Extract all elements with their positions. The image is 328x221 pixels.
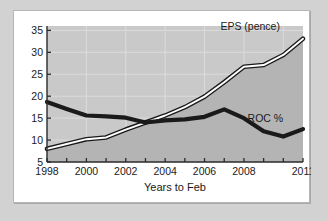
x-tick-label: 2002 xyxy=(114,165,138,177)
y-tick-label: 30 xyxy=(31,46,43,58)
x-tick-label: 2000 xyxy=(75,165,99,177)
y-tick-label: 15 xyxy=(31,112,43,124)
chart-plot-container: 5101520253035 19982000200220042006200820… xyxy=(14,11,311,204)
x-tick-label: 2008 xyxy=(232,165,256,177)
x-tick-label: 2004 xyxy=(153,165,177,177)
x-axis-tick-labels: 1998200020022004200620082011 xyxy=(35,165,311,177)
y-axis-tick-labels: 5101520253035 xyxy=(31,24,43,168)
eps-series-label: EPS (pence) xyxy=(220,20,280,32)
chart-card: 5101520253035 19982000200220042006200820… xyxy=(13,10,310,203)
x-axis-title: Years to Feb xyxy=(144,181,206,193)
x-tick-label: 1998 xyxy=(35,165,59,177)
x-tick-label: 2006 xyxy=(193,165,217,177)
y-tick-label: 35 xyxy=(31,24,43,36)
y-tick-label: 10 xyxy=(31,134,43,146)
y-tick-label: 20 xyxy=(31,90,43,102)
line-chart: 5101520253035 19982000200220042006200820… xyxy=(14,11,311,204)
x-tick-label: 2011 xyxy=(292,165,311,177)
roc-series-label: ROC % xyxy=(248,112,284,124)
y-tick-label: 25 xyxy=(31,68,43,80)
